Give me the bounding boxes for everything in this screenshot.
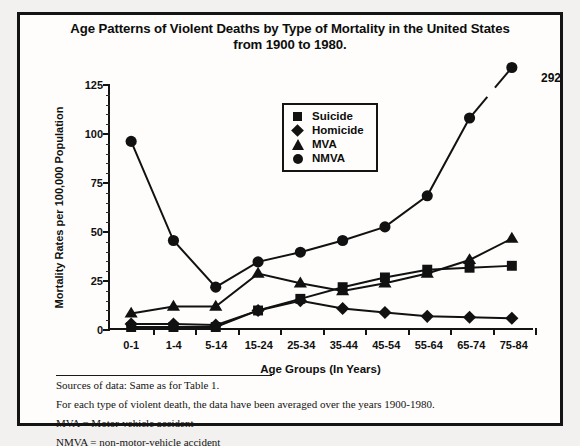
peak-value-annotation: 292: [541, 71, 561, 85]
series-homicide: [125, 294, 519, 331]
y-axis-minor-tick: [106, 124, 110, 125]
figure-frame: Age Patterns of Violent Deaths by Type o…: [17, 12, 563, 426]
data-point-marker: [379, 221, 390, 232]
x-axis-title: Age Groups (In Years): [108, 363, 533, 375]
legend-item-suicide: Suicide: [291, 109, 364, 123]
y-axis-tick-label: 0: [97, 324, 103, 336]
y-axis-minor-tick: [106, 242, 110, 243]
data-point-marker: [505, 232, 518, 243]
data-point-marker: [464, 112, 475, 123]
y-axis-minor-tick: [106, 154, 110, 155]
x-axis-tick: [153, 328, 155, 335]
y-axis-tick-label: 100: [85, 128, 103, 140]
series-nmva: [126, 62, 518, 293]
data-point-marker: [336, 302, 349, 315]
y-axis-tick: [103, 231, 110, 233]
x-axis-tick: [493, 328, 495, 335]
y-axis-minor-tick: [106, 252, 110, 253]
diamond-marker-icon: [291, 123, 305, 137]
legend-item-label: Suicide: [312, 110, 353, 122]
legend-item-label: MVA: [312, 138, 337, 150]
x-axis-tick: [450, 328, 452, 335]
data-point-marker: [506, 62, 517, 73]
x-axis-tick: [238, 328, 240, 335]
footnote-line: Sources of data: Same as for Table 1.: [56, 379, 534, 392]
data-point-marker: [210, 282, 221, 293]
x-axis-tick: [323, 328, 325, 335]
y-axis-minor-tick: [106, 144, 110, 145]
y-axis-tick: [103, 133, 110, 135]
legend-item-label: Homicide: [312, 124, 364, 136]
x-axis-tick: [195, 328, 197, 335]
y-axis-minor-tick: [106, 95, 110, 96]
data-point-marker: [209, 300, 222, 311]
series-suicide: [126, 261, 517, 332]
legend-marker-shape: [292, 139, 304, 150]
y-axis-tick-label: 25: [91, 275, 103, 287]
data-point-marker: [378, 306, 391, 319]
legend-item-homicide: Homicide: [291, 123, 364, 137]
x-axis-tick-label: 65-74: [457, 339, 485, 351]
square-marker-icon: [291, 109, 305, 123]
data-point-marker: [421, 310, 434, 323]
data-point-marker: [463, 311, 476, 324]
y-axis-minor-tick: [106, 310, 110, 311]
y-axis-minor-tick: [106, 212, 110, 213]
legend-item-nmva: NMVA: [291, 151, 364, 165]
data-point-marker: [251, 267, 264, 278]
data-point-marker: [252, 256, 263, 267]
y-axis-tick-label: 50: [91, 226, 103, 238]
x-axis-tick: [535, 328, 537, 335]
x-axis-tick-label: 25-34: [287, 339, 315, 351]
footnote-line: NMVA = non-motor-vehicle accident: [56, 436, 534, 446]
y-axis-minor-tick: [106, 105, 110, 106]
y-axis-minor-tick: [106, 173, 110, 174]
x-axis-tick: [408, 328, 410, 335]
series-line: [131, 301, 512, 325]
footnote-divider: [56, 375, 272, 376]
y-axis-minor-tick: [106, 203, 110, 204]
circle-marker-icon: [291, 151, 305, 165]
y-axis-minor-tick: [106, 291, 110, 292]
y-axis-tick: [103, 84, 110, 86]
x-axis-tick: [365, 328, 367, 335]
chart-legend: SuicideHomicideMVANMVA: [282, 103, 378, 172]
triangle-marker-icon: [291, 137, 305, 151]
data-point-marker: [168, 235, 179, 246]
data-point-marker: [337, 235, 348, 246]
legend-marker-shape: [291, 124, 304, 137]
x-axis-tick-label: 35-44: [330, 339, 358, 351]
y-axis-tick: [103, 182, 110, 184]
x-axis-tick-label: 1-4: [166, 339, 182, 351]
y-axis-minor-tick: [106, 193, 110, 194]
y-axis-minor-tick: [106, 222, 110, 223]
x-axis-tick: [280, 328, 282, 335]
data-point-marker: [505, 312, 518, 325]
y-axis-minor-tick: [106, 261, 110, 262]
data-point-marker: [126, 136, 137, 147]
y-axis-minor-tick: [106, 163, 110, 164]
x-axis-tick-label: 45-54: [372, 339, 400, 351]
footnotes: Sources of data: Same as for Table 1.For…: [56, 375, 534, 446]
legend-item-mva: MVA: [291, 137, 364, 151]
footnote-line: MVA = Motor-vehicle accident: [56, 417, 534, 430]
footnote-line: For each type of violent death, the data…: [56, 398, 534, 411]
legend-marker-shape: [293, 154, 303, 164]
y-axis-minor-tick: [106, 301, 110, 302]
data-point-marker: [507, 261, 517, 271]
data-point-marker: [422, 190, 433, 201]
y-axis-tick: [103, 280, 110, 282]
chart-title: Age Patterns of Violent Deaths by Type o…: [20, 21, 560, 53]
data-point-marker: [167, 300, 180, 311]
series-line: [131, 239, 512, 314]
y-axis-tick: [103, 329, 110, 331]
chart-title-line-2: from 1900 to 1980.: [20, 37, 560, 53]
y-axis-minor-tick: [106, 114, 110, 115]
y-axis-tick-label: 125: [85, 79, 103, 91]
x-axis-tick-label: 5-14: [205, 339, 227, 351]
chart-title-line-1: Age Patterns of Violent Deaths by Type o…: [20, 21, 560, 37]
x-axis-tick-label: 55-64: [415, 339, 443, 351]
y-axis-minor-tick: [106, 320, 110, 321]
x-axis-tick-label: 15-24: [245, 339, 273, 351]
data-point-marker: [295, 247, 306, 258]
